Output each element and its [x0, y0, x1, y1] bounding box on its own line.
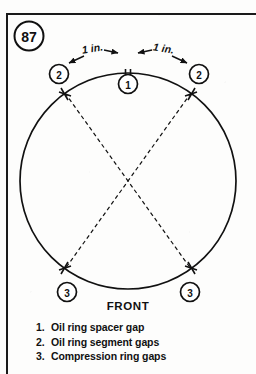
marker-label: 2 [56, 70, 62, 81]
legend-item-text: Compression ring gaps [51, 349, 166, 364]
legend-item-number: 3. [36, 349, 51, 364]
marker-label: 1 [125, 80, 131, 91]
legend-list: 1. Oil ring spacer gap 2. Oil ring segme… [36, 320, 236, 364]
marker-left-2: 2 [50, 65, 69, 84]
dimension-label-right: 1 in. [152, 40, 175, 55]
dimension-label-left: 1 in. [81, 40, 104, 55]
legend-item: 1. Oil ring spacer gap [36, 320, 236, 335]
marker-label: 3 [64, 288, 70, 299]
legend-item-text: Oil ring segment gaps [51, 335, 159, 350]
figure-number-badge: 87 [15, 22, 44, 51]
ring-gap-ticks [59, 69, 197, 274]
legend-item-text: Oil ring spacer gap [51, 320, 144, 335]
marker-bottom-right-3: 3 [181, 283, 200, 302]
legend-item: 2. Oil ring segment gaps [36, 335, 236, 350]
figure-page: 87 [0, 0, 256, 374]
marker-bottom-left-3: 3 [58, 283, 77, 302]
marker-right-2: 2 [190, 65, 209, 84]
marker-top-1: 1 [119, 75, 138, 94]
marker-label: 3 [187, 288, 193, 299]
dashed-construction-lines [65, 93, 191, 269]
marker-label: 2 [196, 70, 202, 81]
front-orientation-label: FRONT [107, 300, 150, 312]
piston-ring-gap-diagram: 87 [0, 0, 256, 374]
figure-number-text: 87 [21, 29, 37, 45]
legend-item-number: 2. [36, 335, 51, 350]
legend-item-number: 1. [36, 320, 51, 335]
legend-item: 3. Compression ring gaps [36, 349, 236, 364]
